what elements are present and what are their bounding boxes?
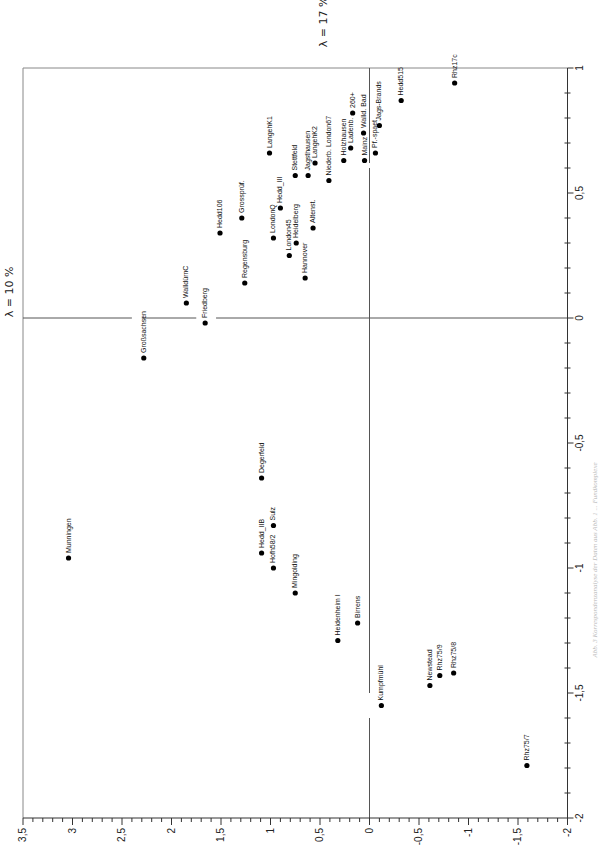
- point-label: LangehK1: [266, 116, 274, 148]
- x-axis-title: λ = 10 %: [3, 267, 16, 318]
- data-point: Munningen: [65, 518, 73, 560]
- point-label: Stettfeld: [291, 145, 298, 171]
- point-marker: [239, 215, 244, 220]
- point-marker: [66, 555, 71, 560]
- y-axis-right: 10,50-0,5-1-1,5-2: [565, 65, 585, 823]
- point-marker: [373, 150, 378, 155]
- point-label: Sulz: [269, 506, 276, 520]
- data-point: Newstead: [426, 649, 433, 688]
- data-points: Rhz17cHedd515Jags-BrandsPf.-spaetWalld. …: [65, 54, 530, 768]
- x-tick-label: 1,5: [215, 828, 226, 842]
- data-point: Kumpfmühl: [377, 665, 385, 708]
- point-marker: [399, 98, 404, 103]
- point-label: Rhz75/8: [450, 642, 457, 668]
- y-tick-label: 0,5: [574, 186, 585, 200]
- x-tick-label: 0,5: [314, 828, 325, 842]
- data-point: Stettfeld: [291, 145, 298, 178]
- point-marker: [293, 173, 298, 178]
- data-point: WalldürnC: [182, 266, 189, 306]
- point-marker: [362, 158, 367, 163]
- data-point: Rhz75/8: [450, 642, 457, 676]
- point-label: Hannover: [301, 242, 308, 273]
- point-label: Altenst.: [309, 200, 316, 223]
- point-marker: [184, 300, 189, 305]
- y-tick-label: -0,5: [574, 434, 585, 452]
- point-marker: [267, 150, 272, 155]
- point-label: Birrens: [354, 595, 361, 618]
- point-label: Hedd_IIB: [258, 518, 266, 548]
- point-label: Rhz75/9: [436, 644, 443, 670]
- point-marker: [271, 565, 276, 570]
- data-point: Hofh58/2: [269, 534, 276, 570]
- point-label: London45: [285, 219, 292, 250]
- point-label: Holzhausen: [340, 118, 347, 155]
- data-point: Heidelberg: [292, 204, 300, 246]
- point-marker: [310, 225, 315, 230]
- point-marker: [293, 590, 298, 595]
- point-marker: [259, 550, 264, 555]
- point-marker: [341, 158, 346, 163]
- figure-caption: Abb. 3 Korrespondenzanalyse der Daten au…: [591, 462, 599, 658]
- data-point: Altenst.: [309, 200, 316, 231]
- point-marker: [437, 673, 442, 678]
- point-label: Niederb. London67: [325, 116, 332, 176]
- point-label: LondonQ: [269, 204, 277, 233]
- x-tick-label: 3: [67, 828, 78, 834]
- data-point: Niederb. London67: [325, 116, 332, 183]
- point-label: Mingolding: [291, 554, 299, 588]
- point-label: Jags-Brands: [375, 81, 383, 121]
- point-marker: [348, 145, 353, 150]
- data-point: Hedd_III: [276, 176, 284, 210]
- data-point: Grossprüf.: [238, 180, 246, 220]
- point-marker: [294, 240, 299, 245]
- data-point: Rhz75/9: [436, 644, 443, 678]
- y-tick-label: -1: [574, 563, 585, 572]
- data-point: 260+: [349, 92, 356, 115]
- point-marker: [312, 160, 317, 165]
- point-label: Ladenb.: [347, 118, 354, 143]
- point-marker: [259, 475, 264, 480]
- point-label: Jagsthausen: [304, 131, 312, 171]
- data-point: Birrens: [354, 595, 361, 625]
- point-label: Heidenheim I: [334, 594, 341, 635]
- point-marker: [303, 275, 308, 280]
- point-label: Hedd515: [397, 67, 404, 96]
- point-label: Munningen: [65, 518, 73, 553]
- point-label: Hedd106: [216, 199, 223, 228]
- x-tick-label: -0,5: [413, 828, 424, 846]
- point-marker: [427, 683, 432, 688]
- point-marker: [355, 620, 360, 625]
- data-point: LondonQ: [269, 204, 277, 241]
- plot-frame: [23, 68, 568, 818]
- data-point: Rhz17c: [451, 54, 458, 86]
- point-marker: [379, 703, 384, 708]
- data-point: Heidenheim I: [334, 594, 341, 643]
- point-marker: [452, 80, 457, 85]
- x-axis-bottom: 3,532,521,510,50-0,5-1-1,5-2: [17, 818, 573, 845]
- point-marker: [278, 205, 283, 210]
- data-point: Mingolding: [291, 554, 299, 596]
- y-tick-label: 0: [574, 315, 585, 321]
- point-label: Rhz75/7: [523, 734, 530, 760]
- y-tick-label: 1: [574, 65, 585, 71]
- point-label: Friedberg: [201, 288, 209, 318]
- x-tick-label: 1: [265, 828, 276, 834]
- x-tick-label: 3,5: [17, 828, 28, 842]
- data-point: Mainz: [361, 136, 368, 163]
- data-point: LangehK1: [266, 116, 274, 156]
- data-point: Friedberg: [201, 288, 209, 326]
- point-label: Grossprüf.: [238, 180, 246, 213]
- point-marker: [217, 230, 222, 235]
- point-marker: [524, 763, 529, 768]
- data-point: LangehK2: [311, 126, 319, 166]
- point-label: Pf.-spaet: [371, 120, 379, 148]
- point-marker: [350, 110, 355, 115]
- data-point: Hedd106: [216, 199, 223, 235]
- point-marker: [361, 130, 366, 135]
- point-label: 260+: [349, 92, 356, 108]
- x-tick-label: -2: [562, 828, 573, 837]
- data-point: Holzhausen: [340, 118, 347, 163]
- point-label: Kumpfmühl: [377, 665, 385, 701]
- point-label: Heidelberg: [292, 204, 300, 238]
- data-point: Sulz: [269, 506, 276, 528]
